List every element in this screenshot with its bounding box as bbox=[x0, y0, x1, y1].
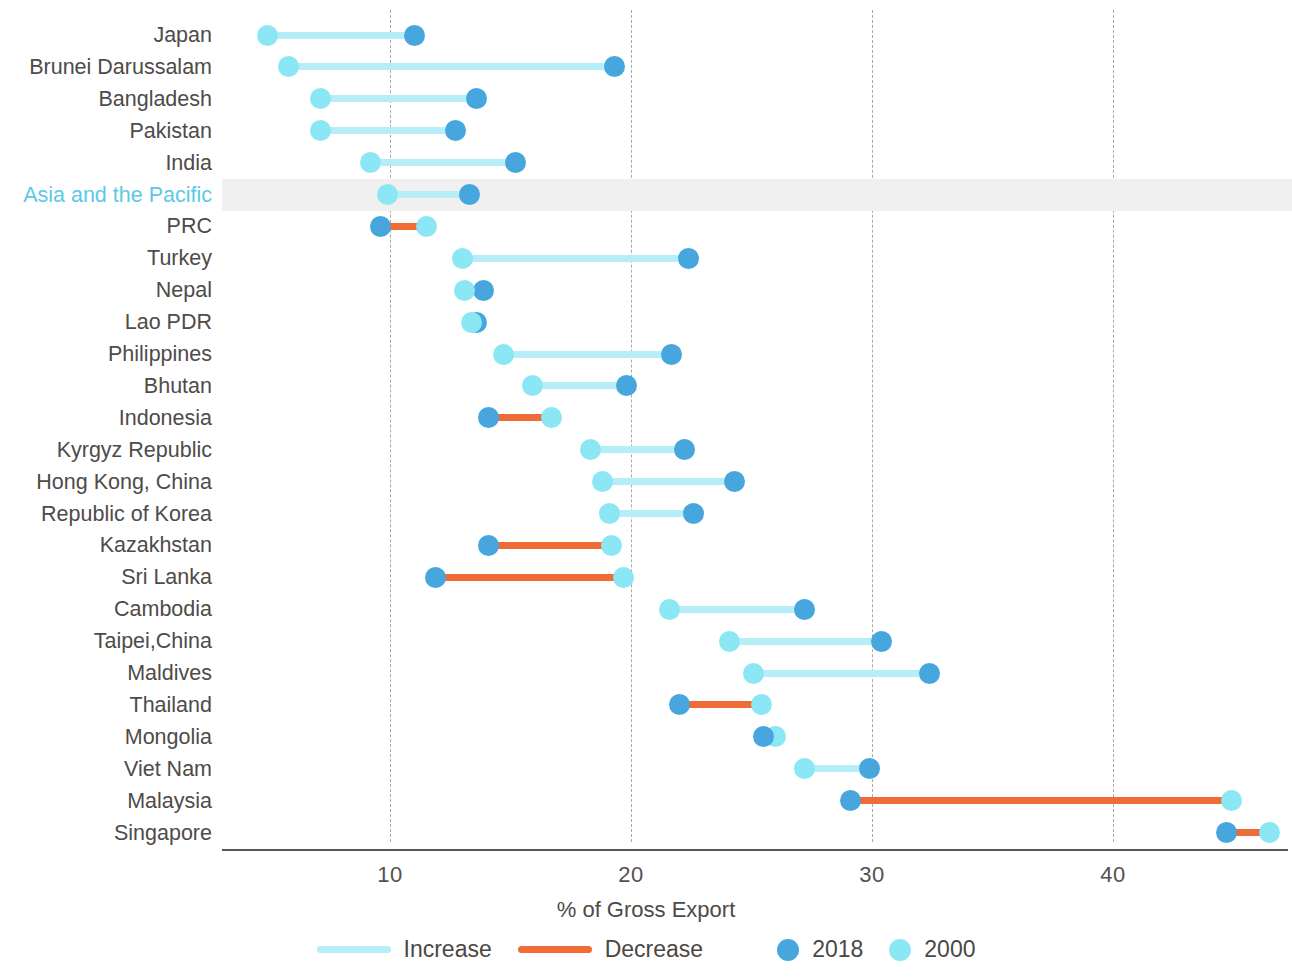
connector-decrease bbox=[436, 574, 624, 581]
dot-2000[interactable] bbox=[493, 344, 514, 365]
dot-2018[interactable] bbox=[478, 535, 499, 556]
connector-decrease bbox=[850, 797, 1231, 804]
chart-row[interactable]: PRC bbox=[0, 210, 1292, 242]
dot-2018[interactable] bbox=[370, 216, 391, 237]
chart-row[interactable]: Brunei Darussalam bbox=[0, 51, 1292, 83]
dot-2018[interactable] bbox=[678, 248, 699, 269]
row-label-turkey: Turkey bbox=[0, 242, 212, 274]
plot-area: JapanBrunei DarussalamBangladeshPakistan… bbox=[0, 0, 1292, 850]
dot-2018[interactable] bbox=[669, 694, 690, 715]
connector-increase bbox=[532, 382, 626, 389]
dot-2000[interactable] bbox=[719, 631, 740, 652]
dot-2018[interactable] bbox=[871, 631, 892, 652]
dot-2000[interactable] bbox=[257, 25, 278, 46]
chart-row[interactable]: Malaysia bbox=[0, 785, 1292, 817]
chart-row[interactable]: Japan bbox=[0, 19, 1292, 51]
dot-2018[interactable] bbox=[466, 88, 487, 109]
dot-2018[interactable] bbox=[794, 599, 815, 620]
connector-increase bbox=[754, 670, 930, 677]
dot-2018[interactable] bbox=[505, 152, 526, 173]
dot-2018[interactable] bbox=[478, 407, 499, 428]
chart-row[interactable]: Hong Kong, China bbox=[0, 466, 1292, 498]
chart-row[interactable]: Asia and the Pacific bbox=[0, 179, 1292, 211]
dot-2000[interactable] bbox=[613, 567, 634, 588]
legend-item-increase[interactable]: Increase bbox=[317, 938, 492, 961]
dot-2000[interactable] bbox=[310, 120, 331, 141]
dot-2000[interactable] bbox=[601, 535, 622, 556]
chart-legend: IncreaseDecrease20182000 bbox=[0, 938, 1292, 961]
chart-row[interactable]: Singapore bbox=[0, 817, 1292, 849]
dot-2018[interactable] bbox=[604, 56, 625, 77]
dot-2000[interactable] bbox=[377, 184, 398, 205]
dot-2000[interactable] bbox=[278, 56, 299, 77]
dot-2018[interactable] bbox=[724, 471, 745, 492]
dot-2000[interactable] bbox=[592, 471, 613, 492]
dot-2018[interactable] bbox=[473, 280, 494, 301]
chart-row[interactable]: Pakistan bbox=[0, 115, 1292, 147]
dot-2018[interactable] bbox=[683, 503, 704, 524]
chart-row[interactable]: Republic of Korea bbox=[0, 498, 1292, 530]
chart-row[interactable]: Mongolia bbox=[0, 721, 1292, 753]
dot-2018[interactable] bbox=[1216, 822, 1237, 843]
dot-2000[interactable] bbox=[310, 88, 331, 109]
chart-row[interactable]: India bbox=[0, 147, 1292, 179]
chart-row[interactable]: Taipei,China bbox=[0, 625, 1292, 657]
chart-row[interactable]: Lao PDR bbox=[0, 306, 1292, 338]
dot-2018[interactable] bbox=[459, 184, 480, 205]
chart-row[interactable]: Indonesia bbox=[0, 402, 1292, 434]
dot-2000[interactable] bbox=[522, 375, 543, 396]
row-label-malaysia: Malaysia bbox=[0, 785, 212, 817]
chart-row[interactable]: Sri Lanka bbox=[0, 561, 1292, 593]
chart-row[interactable]: Nepal bbox=[0, 274, 1292, 306]
dot-2000[interactable] bbox=[751, 694, 772, 715]
dot-2000[interactable] bbox=[454, 280, 475, 301]
dot-2000[interactable] bbox=[1259, 822, 1280, 843]
row-label-philippines: Philippines bbox=[0, 338, 212, 370]
connector-increase bbox=[371, 159, 516, 166]
chart-row[interactable]: Maldives bbox=[0, 657, 1292, 689]
chart-row[interactable]: Thailand bbox=[0, 689, 1292, 721]
dot-2000[interactable] bbox=[599, 503, 620, 524]
dot-2018[interactable] bbox=[661, 344, 682, 365]
connector-increase bbox=[602, 478, 735, 485]
dot-2000[interactable] bbox=[416, 216, 437, 237]
dot-2018[interactable] bbox=[445, 120, 466, 141]
legend-item-decrease[interactable]: Decrease bbox=[518, 938, 703, 961]
legend-item-2018[interactable]: 2018 bbox=[777, 938, 863, 961]
legend-label: Decrease bbox=[605, 938, 703, 961]
row-label-asia-and-the-pacific: Asia and the Pacific bbox=[0, 179, 212, 211]
dot-2018[interactable] bbox=[404, 25, 425, 46]
dot-2018[interactable] bbox=[859, 758, 880, 779]
dot-2000[interactable] bbox=[659, 599, 680, 620]
dot-2000[interactable] bbox=[461, 312, 482, 333]
chart-row[interactable]: Kazakhstan bbox=[0, 529, 1292, 561]
legend-item-2000[interactable]: 2000 bbox=[889, 938, 975, 961]
row-label-bangladesh: Bangladesh bbox=[0, 83, 212, 115]
chart-row[interactable]: Viet Nam bbox=[0, 753, 1292, 785]
chart-row[interactable]: Kyrgyz Republic bbox=[0, 434, 1292, 466]
chart-row[interactable]: Bhutan bbox=[0, 370, 1292, 402]
tick-label-10: 10 bbox=[355, 862, 425, 888]
chart-row[interactable]: Turkey bbox=[0, 242, 1292, 274]
dot-2000[interactable] bbox=[743, 663, 764, 684]
dot-2018[interactable] bbox=[425, 567, 446, 588]
dot-2000[interactable] bbox=[452, 248, 473, 269]
dot-2018[interactable] bbox=[840, 790, 861, 811]
dot-2018[interactable] bbox=[616, 375, 637, 396]
dot-2018[interactable] bbox=[919, 663, 940, 684]
row-label-japan: Japan bbox=[0, 19, 212, 51]
dot-2000[interactable] bbox=[541, 407, 562, 428]
legend-label: Increase bbox=[404, 938, 492, 961]
dot-2000[interactable] bbox=[1221, 790, 1242, 811]
dot-2018[interactable] bbox=[674, 439, 695, 460]
connector-increase bbox=[609, 510, 693, 517]
row-label-india: India bbox=[0, 147, 212, 179]
dot-2000[interactable] bbox=[360, 152, 381, 173]
chart-row[interactable]: Philippines bbox=[0, 338, 1292, 370]
dot-2000[interactable] bbox=[580, 439, 601, 460]
dumbbell-chart: JapanBrunei DarussalamBangladeshPakistan… bbox=[0, 0, 1292, 977]
chart-row[interactable]: Bangladesh bbox=[0, 83, 1292, 115]
dot-2000[interactable] bbox=[794, 758, 815, 779]
chart-row[interactable]: Cambodia bbox=[0, 593, 1292, 625]
row-label-cambodia: Cambodia bbox=[0, 593, 212, 625]
